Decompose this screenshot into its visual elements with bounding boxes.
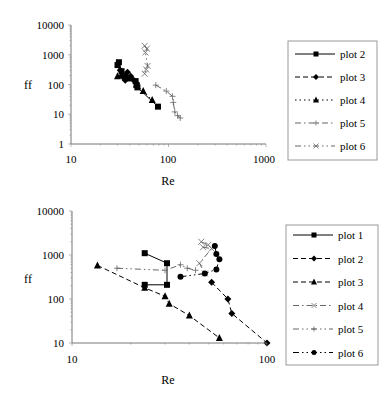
bottom-legend: plot 1plot 2plot 3plot 4plot 5plot 6 bbox=[286, 225, 378, 365]
top-y-tick-10: 10 bbox=[53, 108, 65, 120]
series-plot-6 bbox=[177, 243, 222, 280]
bottom-x-axis-label: Re bbox=[161, 373, 174, 387]
legend-label: plot 5 bbox=[338, 323, 364, 335]
figure: 10000 1000 100 10 1 10 100 1000 Re ff pl… bbox=[0, 0, 386, 399]
series-plot-5 bbox=[114, 262, 199, 273]
bottom-y-tick-100: 100 bbox=[48, 293, 65, 305]
top-x-tick-10: 10 bbox=[66, 153, 78, 165]
top-y-tick-100: 100 bbox=[48, 79, 65, 91]
bottom-y-tick-1000: 1000 bbox=[42, 249, 65, 261]
bottom-y-tick-10000: 10000 bbox=[37, 205, 65, 217]
top-chart: 10000 1000 100 10 1 10 100 1000 Re ff pl… bbox=[24, 19, 377, 188]
top-x-axis-label: Re bbox=[161, 174, 174, 188]
legend-label: plot 4 bbox=[338, 300, 364, 312]
bottom-legend-box bbox=[286, 225, 378, 365]
top-y-tick-10000: 10000 bbox=[37, 19, 65, 31]
bottom-x-tick-100: 100 bbox=[259, 353, 276, 365]
legend-label: plot 2 bbox=[340, 48, 365, 60]
bottom-y-axis-label: ff bbox=[24, 272, 32, 286]
top-x-tick-1000: 1000 bbox=[253, 153, 276, 165]
bottom-y-tick-10: 10 bbox=[53, 337, 65, 349]
top-y-axis-label: ff bbox=[24, 78, 32, 92]
legend-label: plot 6 bbox=[338, 347, 364, 359]
series-plot-6 bbox=[142, 43, 151, 77]
bottom-axis-ticks bbox=[69, 211, 267, 346]
bottom-chart: 10000 1000 100 10 10 100 Re ff plot 1plo… bbox=[24, 205, 378, 387]
series-plot-5 bbox=[153, 82, 184, 121]
top-x-tick-100: 100 bbox=[160, 153, 177, 165]
top-legend: plot 2plot 3plot 4plot 5plot 6 bbox=[288, 41, 377, 160]
legend-label: plot 3 bbox=[338, 276, 364, 288]
series-plot-1 bbox=[142, 250, 170, 288]
legend-label: plot 3 bbox=[340, 71, 366, 83]
legend-label: plot 2 bbox=[338, 253, 363, 265]
legend-label: plot 5 bbox=[340, 117, 366, 129]
top-plot-area bbox=[114, 43, 183, 121]
legend-label: plot 6 bbox=[340, 140, 366, 152]
top-axis-ticks bbox=[68, 25, 266, 147]
series-plot-2 bbox=[208, 279, 270, 347]
bottom-plot-area bbox=[94, 239, 271, 347]
top-y-tick-1000: 1000 bbox=[42, 49, 65, 61]
top-y-tick-1: 1 bbox=[59, 138, 65, 150]
legend-label: plot 1 bbox=[338, 229, 363, 241]
legend-label: plot 4 bbox=[340, 94, 366, 106]
bottom-x-tick-10: 10 bbox=[67, 353, 79, 365]
